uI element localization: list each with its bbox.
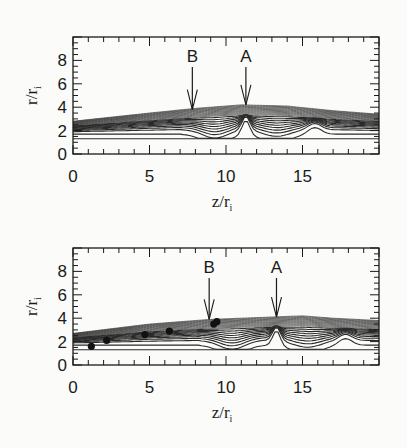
y-tick-label: 6 (58, 286, 67, 305)
annotation-label: A (240, 47, 252, 66)
x-tick-label: 0 (68, 378, 77, 397)
x-tick-label: 5 (145, 378, 154, 397)
contour-lines (73, 316, 379, 350)
y-tick-label: 4 (58, 98, 67, 117)
annotation-label: A (271, 258, 283, 277)
x-tick-label: 10 (217, 378, 236, 397)
plot-frame (73, 37, 379, 154)
contour-lines (73, 105, 379, 139)
data-point (103, 337, 110, 344)
axis-ticks (73, 248, 379, 365)
annotation-arrow-b: B (203, 258, 214, 319)
x-tick-label: 10 (217, 167, 236, 186)
x-axis-label: z/ri (212, 403, 233, 424)
x-tick-label: 15 (293, 378, 312, 397)
x-tick-label: 15 (293, 167, 312, 186)
annotation-arrow-a: A (271, 258, 283, 317)
y-axis-label: r/ri (22, 297, 43, 316)
y-tick-label: 4 (58, 309, 67, 328)
plot-frame (73, 248, 379, 365)
y-tick-label: 2 (58, 333, 67, 352)
annotation-arrow-b: B (187, 47, 198, 110)
y-axis-label: r/ri (22, 86, 43, 105)
figure-canvas: 05101502468z/rir/riBA05101502468z/rir/ri… (0, 0, 407, 448)
x-tick-label: 5 (145, 167, 154, 186)
data-point (141, 331, 148, 338)
y-tick-label: 0 (58, 145, 67, 164)
y-tick-label: 8 (58, 51, 67, 70)
y-tick-label: 8 (58, 262, 67, 281)
data-point (166, 327, 173, 334)
y-tick-label: 0 (58, 356, 67, 375)
annotation-label: B (187, 47, 198, 66)
axis-ticks (73, 37, 379, 154)
y-tick-label: 2 (58, 122, 67, 141)
data-point (213, 318, 220, 325)
x-axis-label: z/ri (212, 192, 233, 213)
panel-top: 05101502468z/rir/riBA (22, 37, 379, 213)
annotation-label: B (203, 258, 214, 277)
y-tick-label: 6 (58, 75, 67, 94)
annotation-arrow-a: A (240, 47, 252, 105)
panel-bottom: 05101502468z/rir/riBA (22, 248, 379, 424)
data-point (88, 343, 95, 350)
x-tick-label: 0 (68, 167, 77, 186)
